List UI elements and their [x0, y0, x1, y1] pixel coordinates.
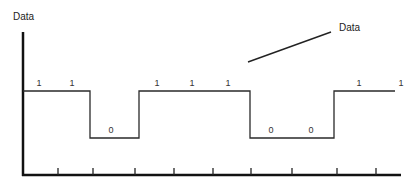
bit-label: 0: [308, 126, 313, 135]
annotation-leader-line: [248, 32, 331, 62]
bit-label: 1: [356, 79, 361, 88]
bit-label: 1: [36, 79, 41, 88]
data-waveform: [23, 91, 395, 138]
bit-label: 1: [69, 79, 74, 88]
bit-label: 1: [189, 79, 194, 88]
bit-label: 1: [398, 79, 403, 88]
bit-label: 0: [268, 126, 273, 135]
annotation-label: Data: [339, 23, 360, 33]
bit-label: 1: [154, 79, 159, 88]
bit-label: 1: [225, 79, 230, 88]
bit-label: 0: [108, 126, 113, 135]
